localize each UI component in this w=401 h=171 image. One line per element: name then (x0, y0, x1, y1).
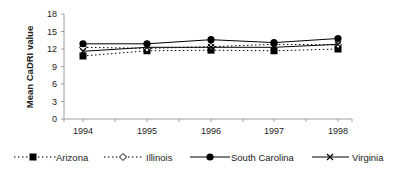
x-tick-label: 1994 (73, 126, 93, 136)
y-tick-label: 18 (47, 9, 57, 19)
data-point-marker (120, 154, 127, 161)
legend-label: Arizona (56, 152, 89, 163)
legend-item-arizona: Arizona (14, 152, 89, 163)
legend-label: South Carolina (231, 152, 295, 163)
y-tick-label: 9 (52, 62, 57, 72)
x-tick-label: 1998 (328, 126, 348, 136)
legend-item-south-carolina: South Carolina (190, 152, 295, 163)
data-point-marker (79, 40, 86, 47)
data-point-marker (206, 153, 213, 160)
y-tick-label: 3 (52, 97, 57, 107)
legend-item-illinois: Illinois (104, 152, 173, 163)
y-tick-label: 0 (52, 114, 57, 124)
legend-item-virginia: Virginia (312, 152, 384, 163)
x-ticks: 19941995199619971998 (64, 119, 352, 136)
x-tick-label: 1996 (201, 126, 221, 136)
series-group (79, 35, 341, 60)
data-point-marker (207, 36, 214, 43)
data-point-marker (30, 154, 37, 161)
line-chart: Mean CaDRI value 0369121518 199419951996… (0, 0, 401, 171)
y-tick-label: 6 (52, 79, 57, 89)
x-tick-label: 1997 (264, 126, 284, 136)
y-ticks: 0369121518 (47, 9, 64, 124)
chart-canvas: Mean CaDRI value 0369121518 199419951996… (0, 0, 401, 171)
data-point-marker (143, 40, 150, 47)
legend-label: Virginia (352, 152, 384, 163)
y-axis-title: Mean CaDRI value (24, 26, 35, 108)
legend: ArizonaIllinoisSouth CarolinaVirginia (14, 152, 384, 163)
legend-label: Illinois (146, 152, 173, 163)
y-tick-label: 12 (47, 44, 57, 54)
y-tick-label: 15 (47, 27, 57, 37)
x-tick-label: 1995 (137, 126, 157, 136)
